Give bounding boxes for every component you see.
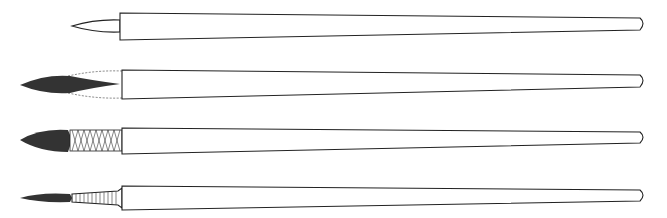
brush-4 xyxy=(20,186,643,210)
brush-2-hair xyxy=(20,76,120,94)
brush-1-tip xyxy=(72,20,120,32)
brush-4-handle xyxy=(122,186,643,210)
brush-3-ferrule xyxy=(70,130,122,151)
brush-3 xyxy=(20,128,643,154)
brush-4-hair xyxy=(20,194,72,203)
brush-2 xyxy=(20,70,643,99)
brush-4-ferrule xyxy=(72,188,122,208)
brush-3-hair xyxy=(20,130,72,152)
brush-3-handle xyxy=(122,128,643,154)
paintbrush-illustration xyxy=(0,0,667,218)
brush-1-handle xyxy=(120,13,643,40)
brush-2-quill-upper xyxy=(68,71,122,76)
brush-1 xyxy=(72,13,643,40)
brush-2-handle xyxy=(122,70,643,99)
brush-2-quill-lower xyxy=(68,93,122,98)
